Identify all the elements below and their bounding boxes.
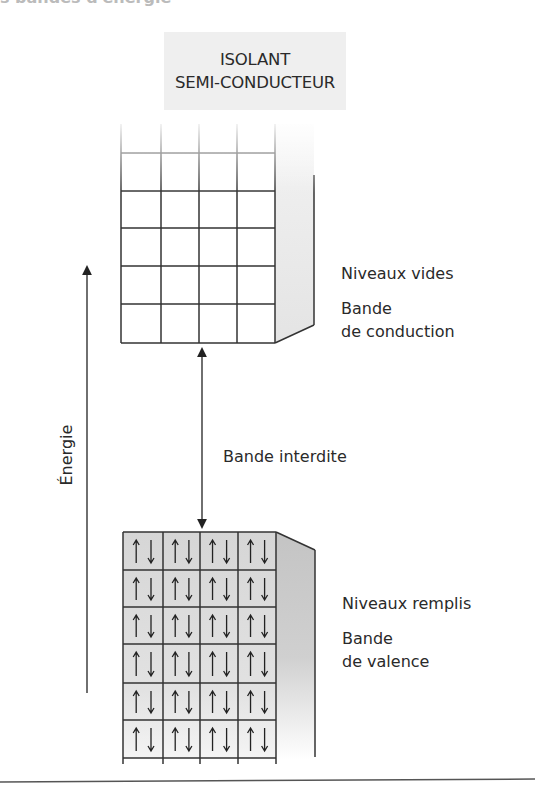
valence-levels-label: Niveaux remplis bbox=[342, 593, 471, 615]
valence-band-side bbox=[276, 532, 315, 760]
bottom-rule bbox=[0, 779, 535, 782]
energy-axis-label: Énergie bbox=[57, 426, 76, 486]
conduction-band bbox=[115, 118, 320, 343]
valence-band-label-1: Bande bbox=[342, 628, 393, 650]
band-gap-label: Bande interdite bbox=[223, 446, 347, 468]
conduction-band-label-1: Bande bbox=[341, 298, 392, 320]
valence-band bbox=[123, 532, 315, 764]
band-diagram bbox=[0, 0, 535, 799]
conduction-levels-label: Niveaux vides bbox=[341, 263, 453, 285]
valence-band-label-2: de valence bbox=[342, 651, 429, 673]
conduction-band-label-2: de conduction bbox=[341, 321, 455, 343]
